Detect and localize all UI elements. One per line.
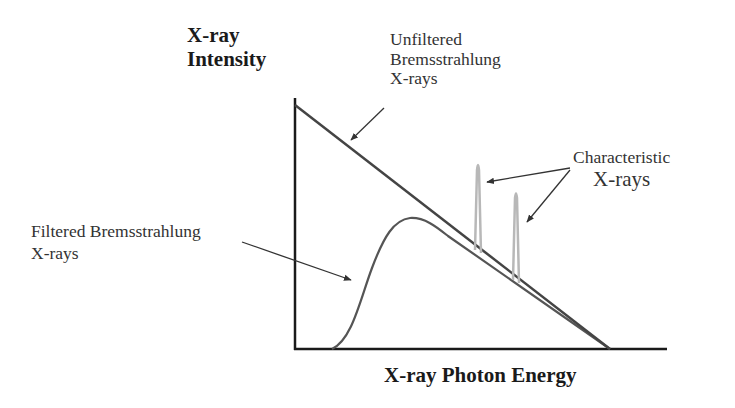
unfiltered-label: Unfiltered Bremsstrahlung X-rays bbox=[390, 30, 501, 89]
unfiltered-label-line1: Unfiltered bbox=[390, 30, 501, 50]
y-axis-label: X-ray Intensity bbox=[187, 24, 266, 71]
spectrum-diagram bbox=[0, 0, 735, 408]
unfiltered-arrow-icon bbox=[351, 108, 384, 140]
y-axis-label-line2: Intensity bbox=[187, 48, 266, 72]
filtered-label-line1: Filtered Bremsstrahlung bbox=[31, 221, 201, 243]
characteristic-label: Characteristic X-rays bbox=[573, 148, 670, 191]
filtered-label: Filtered Bremsstrahlung X-rays bbox=[31, 221, 201, 265]
characteristic-peak-1 bbox=[475, 165, 481, 253]
y-axis-label-line1: X-ray bbox=[187, 24, 266, 48]
characteristic-label-line1: Characteristic bbox=[573, 148, 670, 168]
characteristic-arrow-1-icon bbox=[487, 168, 570, 182]
unfiltered-label-line2: Bremsstrahlung bbox=[390, 50, 501, 70]
filtered-bremsstrahlung-curve bbox=[332, 218, 610, 349]
unfiltered-label-line3: X-rays bbox=[390, 69, 501, 89]
unfiltered-bremsstrahlung-line bbox=[295, 105, 610, 349]
filtered-label-line2: X-rays bbox=[31, 243, 201, 265]
x-axis-label: X-ray Photon Energy bbox=[384, 364, 577, 388]
characteristic-peak-2 bbox=[513, 194, 519, 284]
characteristic-label-line2: X-rays bbox=[573, 168, 670, 192]
filtered-arrow-icon bbox=[242, 242, 351, 280]
characteristic-arrow-2-icon bbox=[527, 170, 570, 222]
